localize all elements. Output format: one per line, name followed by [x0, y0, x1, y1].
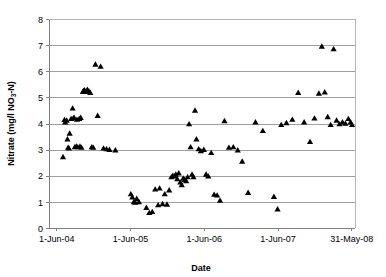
y-axis-ticks: 012345678 — [38, 15, 49, 234]
data-points — [60, 43, 355, 215]
y-title-prefix: Nitrate (mg/l NO — [6, 97, 16, 166]
data-point — [271, 194, 277, 199]
x-tick-label-4: 31-May-08 — [330, 234, 373, 244]
data-point — [331, 46, 337, 51]
x-axis-title-text: Date — [191, 263, 211, 273]
data-point — [307, 139, 313, 144]
data-point — [283, 120, 289, 125]
gridlines — [49, 20, 355, 203]
x-axis-ticks: 1-Jun-041-Jun-051-Jun-061-Jun-0731-May-0… — [39, 228, 373, 244]
data-point — [316, 90, 322, 95]
data-point — [245, 190, 251, 195]
y-tick-label-2: 2 — [38, 171, 43, 181]
data-point — [69, 105, 75, 110]
data-point — [295, 90, 301, 95]
x-tick-label-2: 1-Jun-06 — [187, 234, 223, 244]
y-tick-label-0: 0 — [38, 224, 43, 234]
y-tick-label-8: 8 — [38, 15, 43, 25]
data-point — [221, 118, 227, 123]
data-point — [187, 144, 193, 149]
y-tick-label-1: 1 — [38, 198, 43, 208]
data-point — [289, 116, 295, 121]
data-point — [239, 158, 245, 163]
data-point — [322, 89, 328, 94]
nitrate-scatter-chart: 012345678 1-Jun-041-Jun-051-Jun-061-Jun-… — [0, 0, 386, 277]
y-title-suffix: -N) — [6, 81, 16, 94]
data-point — [325, 114, 331, 119]
data-point — [157, 185, 163, 190]
chart-canvas: 012345678 1-Jun-041-Jun-051-Jun-061-Jun-… — [0, 0, 386, 277]
data-point — [95, 113, 101, 118]
x-tick-label-1: 1-Jun-05 — [113, 234, 149, 244]
data-point — [333, 117, 339, 122]
data-point — [252, 119, 258, 124]
data-point — [192, 107, 198, 112]
data-point — [67, 130, 73, 135]
data-point — [230, 144, 236, 149]
y-tick-label-4: 4 — [38, 119, 43, 129]
y-axis-title: Nitrate (mg/l NO3-N) — [6, 81, 17, 166]
data-point — [301, 119, 307, 124]
data-point — [60, 154, 66, 159]
data-point — [217, 197, 223, 202]
data-point — [166, 187, 172, 192]
y-axis-title-text: Nitrate (mg/l NO3-N) — [6, 81, 17, 166]
data-point — [143, 204, 149, 209]
data-point — [152, 186, 158, 191]
data-point — [260, 128, 266, 133]
y-tick-label-7: 7 — [38, 41, 43, 51]
y-tick-label-6: 6 — [38, 67, 43, 77]
data-point — [92, 61, 98, 66]
data-point — [98, 63, 104, 68]
data-point — [274, 206, 280, 211]
y-tick-label-5: 5 — [38, 93, 43, 103]
y-tick-label-3: 3 — [38, 145, 43, 155]
x-tick-label-3: 1-Jun-07 — [260, 234, 296, 244]
x-tick-label-0: 1-Jun-04 — [39, 234, 75, 244]
data-point — [311, 115, 317, 120]
data-point — [64, 136, 70, 141]
data-point — [193, 136, 199, 141]
